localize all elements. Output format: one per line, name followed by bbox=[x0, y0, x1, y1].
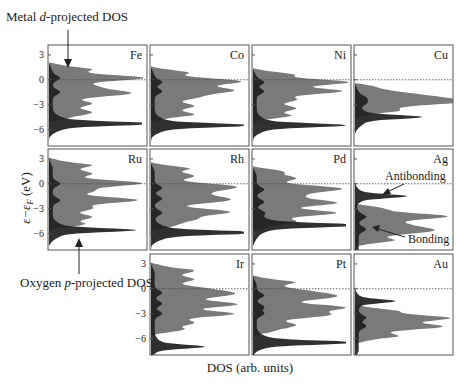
panel-cu: Cu bbox=[354, 45, 464, 146]
metal-d-dos-area bbox=[151, 254, 238, 355]
element-label: Ru bbox=[128, 152, 142, 166]
panel-ni: Ni bbox=[252, 45, 351, 146]
panel-ru: 30−3−6Ru bbox=[33, 149, 147, 250]
y-axis-label: ε−εF (eV) bbox=[18, 172, 35, 224]
y-tick-label: 0 bbox=[39, 178, 44, 189]
y-tick-label: −3 bbox=[33, 99, 44, 110]
oxygen-p-annotation: Oxygen p-projected DOS bbox=[20, 275, 153, 290]
element-label: Co bbox=[230, 48, 244, 62]
y-tick-label: −3 bbox=[135, 308, 146, 319]
element-label: Ni bbox=[334, 48, 347, 62]
panel-au: Au bbox=[354, 254, 453, 355]
panel-grid: 30−3−6FeCoNiCu30−3−6RuRhPdAg30−3−6IrPtAu bbox=[33, 45, 463, 355]
y-tick-label: 3 bbox=[39, 153, 44, 164]
y-tick-label: −6 bbox=[33, 228, 44, 239]
element-label: Pt bbox=[336, 257, 347, 271]
element-label: Fe bbox=[130, 48, 142, 62]
antibonding-arrow bbox=[387, 184, 404, 192]
panel-ir: 30−3−6Ir bbox=[135, 254, 249, 355]
antibonding-arrowhead-icon bbox=[382, 188, 391, 195]
bonding-label: Bonding bbox=[408, 232, 449, 246]
panel-co: Co bbox=[150, 45, 249, 146]
y-tick-label: 0 bbox=[39, 74, 44, 85]
element-label: Rh bbox=[230, 152, 244, 166]
antibonding-label: Antibonding bbox=[385, 169, 446, 183]
element-label: Ag bbox=[433, 152, 448, 166]
metal-d-dos-area bbox=[253, 149, 342, 250]
x-axis-label: DOS (arb. units) bbox=[207, 360, 293, 375]
panel-fe: 30−3−6Fe bbox=[33, 45, 147, 146]
element-label: Ir bbox=[236, 257, 244, 271]
y-tick-label: 3 bbox=[39, 49, 44, 60]
element-label: Pd bbox=[333, 152, 346, 166]
y-tick-label: 3 bbox=[141, 258, 146, 269]
panel-pd: Pd bbox=[252, 149, 351, 250]
element-label: Cu bbox=[434, 48, 448, 62]
panel-rh: Rh bbox=[150, 149, 249, 250]
y-tick-label: −6 bbox=[135, 333, 146, 344]
element-label: Au bbox=[433, 257, 448, 271]
dos-figure: 30−3−6FeCoNiCu30−3−6RuRhPdAg30−3−6IrPtAu… bbox=[0, 0, 468, 386]
panel-pt: Pt bbox=[252, 254, 351, 355]
metal-d-annotation: Metal d-projected DOS bbox=[6, 9, 128, 24]
y-tick-label: −6 bbox=[33, 124, 44, 135]
oxygen-p-arrowhead-icon bbox=[75, 238, 83, 247]
